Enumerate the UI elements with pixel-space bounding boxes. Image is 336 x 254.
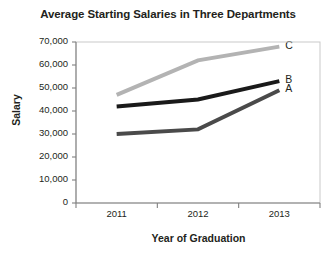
data-line-A: [117, 90, 280, 134]
plot-frame: [76, 42, 320, 203]
plot-area: [0, 0, 336, 254]
chart-container: Average Starting Salaries in Three Depar…: [0, 0, 336, 254]
data-lines: [117, 47, 280, 134]
axes: [72, 42, 320, 208]
